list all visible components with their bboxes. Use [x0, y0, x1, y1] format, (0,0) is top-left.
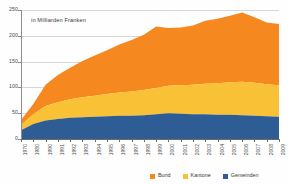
- legend-label-kantone: Kantone: [191, 173, 211, 178]
- x-tick-label-1995: 1995: [109, 144, 114, 155]
- chart-container: 250 200 150 100 50 0 1970198019901991199…: [0, 0, 288, 184]
- x-tick-2006: [242, 139, 243, 142]
- legend-label-bund: Bund: [158, 173, 171, 178]
- legend-swatch-gemeinden: [223, 174, 228, 179]
- x-tick-1970: [21, 139, 22, 142]
- x-tick-2007: [254, 139, 255, 142]
- x-tick-label-1993: 1993: [84, 144, 89, 155]
- legend-item-gemeinden[interactable]: Gemeinden: [223, 173, 259, 178]
- x-tick-label-2004: 2004: [220, 144, 225, 155]
- x-tick-1991: [58, 139, 59, 142]
- x-tick-label-2002: 2002: [195, 144, 200, 155]
- x-tick-1996: [119, 139, 120, 142]
- x-tick-label-2006: 2006: [244, 144, 249, 155]
- x-axis-ticks: 1970198019901991199219931994199519961997…: [0, 0, 288, 184]
- x-tick-2004: [218, 139, 219, 142]
- x-tick-2005: [230, 139, 231, 142]
- chart-legend: Bund Kantone Gemeinden: [150, 170, 286, 182]
- x-tick-2003: [205, 139, 206, 142]
- x-tick-label-2000: 2000: [170, 144, 175, 155]
- x-tick-2002: [193, 139, 194, 142]
- x-tick-1999: [156, 139, 157, 142]
- x-tick-1997: [132, 139, 133, 142]
- x-tick-2008: [267, 139, 268, 142]
- x-tick-label-1997: 1997: [134, 144, 139, 155]
- x-tick-1993: [82, 139, 83, 142]
- legend-swatch-bund: [150, 174, 155, 179]
- x-tick-label-1990: 1990: [48, 144, 53, 155]
- x-tick-label-2007: 2007: [256, 144, 261, 155]
- x-tick-2001: [181, 139, 182, 142]
- x-tick-1992: [70, 139, 71, 142]
- x-tick-label-1998: 1998: [146, 144, 151, 155]
- legend-item-bund[interactable]: Bund: [150, 173, 171, 178]
- x-tick-label-2003: 2003: [207, 144, 212, 155]
- legend-item-kantone[interactable]: Kantone: [183, 173, 211, 178]
- x-tick-label-2009: 2009: [281, 144, 286, 155]
- x-tick-label-1991: 1991: [60, 144, 65, 155]
- x-tick-label-1996: 1996: [121, 144, 126, 155]
- x-tick-label-2001: 2001: [183, 144, 188, 155]
- x-tick-label-1999: 1999: [158, 144, 163, 155]
- x-tick-2000: [168, 139, 169, 142]
- legend-swatch-kantone: [183, 174, 188, 179]
- x-tick-1980: [33, 139, 34, 142]
- x-tick-label-1980: 1980: [35, 144, 40, 155]
- x-tick-1995: [107, 139, 108, 142]
- x-tick-1990: [46, 139, 47, 142]
- x-tick-2009: [279, 139, 280, 142]
- x-tick-label-1992: 1992: [72, 144, 77, 155]
- chart-unit-note: in Milliarden Franken: [31, 17, 86, 23]
- x-tick-label-2005: 2005: [232, 144, 237, 155]
- x-tick-1994: [95, 139, 96, 142]
- x-tick-label-1994: 1994: [97, 144, 102, 155]
- x-tick-label-1970: 1970: [23, 144, 28, 155]
- legend-label-gemeinden: Gemeinden: [231, 173, 259, 178]
- x-tick-1998: [144, 139, 145, 142]
- x-tick-label-2008: 2008: [269, 144, 274, 155]
